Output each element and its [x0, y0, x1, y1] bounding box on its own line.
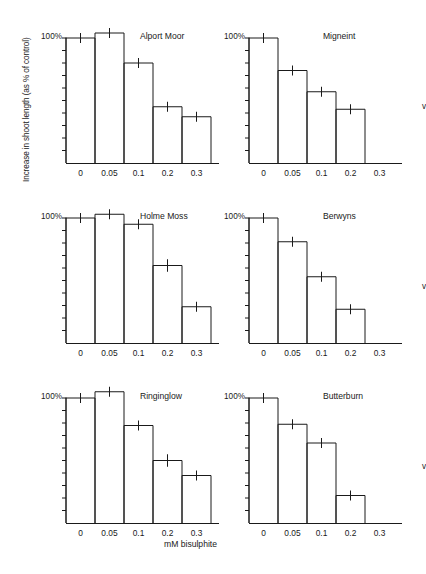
y-axis-tick-label-100: 100%: [26, 212, 62, 221]
panel-title: Butterburn: [323, 391, 363, 401]
bar: [182, 307, 211, 343]
x-tick-label: 0.3: [174, 528, 219, 538]
x-tick-label: 0.3: [174, 348, 219, 358]
bar: [124, 426, 153, 524]
panel-title: Ringinglow: [140, 391, 182, 401]
y-axis-tick-label-100: 100%: [209, 32, 245, 41]
bar: [249, 38, 278, 163]
bar: [95, 392, 124, 523]
bar: [336, 496, 365, 524]
panel-title: Berwyns: [323, 211, 356, 221]
bar: [153, 107, 182, 163]
bar: [95, 214, 124, 343]
x-axis-label: mM bisulphite: [0, 539, 381, 549]
y-axis-label: Increase in shoot length (as % of contro…: [22, 0, 36, 182]
bar: [66, 38, 95, 163]
bar: [153, 266, 182, 344]
v-marker: v: [422, 102, 426, 111]
bar: [278, 424, 307, 523]
y-axis-tick-label-100: 100%: [209, 392, 245, 401]
bar: [278, 242, 307, 343]
y-axis-tick-label-100: 100%: [209, 212, 245, 221]
bar: [307, 443, 336, 523]
bar: [124, 224, 153, 343]
bar: [182, 476, 211, 524]
x-tick-label: 0.3: [357, 528, 402, 538]
panel-title: Holme Moss: [140, 211, 188, 221]
bar: [336, 309, 365, 343]
bar: [124, 63, 153, 163]
bar: [182, 117, 211, 163]
bar: [307, 277, 336, 343]
x-tick-label: 0.3: [357, 168, 402, 178]
panel-title: Migneint: [323, 31, 355, 41]
x-tick-label: 0.3: [357, 348, 402, 358]
bar: [95, 33, 124, 163]
bar: [153, 461, 182, 524]
bar: [66, 398, 95, 523]
v-marker: v: [422, 282, 426, 291]
bar: [66, 218, 95, 343]
y-axis-tick-label-100: 100%: [26, 32, 62, 41]
bar: [278, 71, 307, 164]
bar: [249, 398, 278, 523]
panel-title: Alport Moor: [140, 31, 184, 41]
v-marker: v: [422, 462, 426, 471]
bar: [307, 92, 336, 163]
y-axis-tick-label-100: 100%: [26, 392, 62, 401]
bar: [336, 109, 365, 163]
x-tick-label: 0.3: [174, 168, 219, 178]
bar: [249, 218, 278, 343]
